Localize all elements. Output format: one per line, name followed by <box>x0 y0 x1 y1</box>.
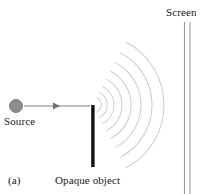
wavefront-arc-3 <box>103 87 114 124</box>
wavefront-arc-1 <box>97 98 101 112</box>
incident-ray-arrowhead <box>53 103 60 110</box>
source-label: Source <box>4 115 35 127</box>
panel-label: (a) <box>8 174 21 186</box>
source-dot <box>10 100 23 113</box>
opaque-object-label: Opaque object <box>55 174 120 186</box>
opaque-object-bar <box>91 105 94 167</box>
incident-ray <box>24 103 90 110</box>
diffraction-figure: Screen Source Opaque object (a) <box>0 0 205 194</box>
screen-label: Screen <box>166 6 197 18</box>
wavefront-arc-7 <box>121 53 152 157</box>
wavefront-arcs <box>97 42 164 167</box>
diagram-canvas <box>0 0 205 194</box>
wavefront-arc-6 <box>116 63 142 148</box>
screen-lines <box>185 22 191 194</box>
